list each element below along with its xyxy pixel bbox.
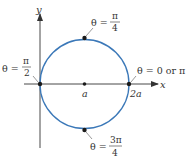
leader-origin bbox=[33, 76, 38, 82]
polar-circle-diagram: y x a 2a θ = π 4 θ = 3π 4 θ = π 2 θ = 0 … bbox=[0, 0, 187, 164]
svg-text:π: π bbox=[23, 56, 29, 66]
center-tick-label: a bbox=[82, 88, 88, 99]
svg-text:θ =: θ = bbox=[91, 17, 108, 28]
point-center bbox=[83, 82, 87, 86]
svg-text:4: 4 bbox=[112, 23, 118, 33]
x-axis-label: x bbox=[160, 79, 166, 90]
leader-bottom bbox=[86, 132, 92, 139]
leader-top bbox=[86, 28, 93, 36]
svg-text:3π: 3π bbox=[110, 135, 122, 145]
point-right bbox=[127, 82, 131, 86]
svg-text:4: 4 bbox=[112, 148, 118, 158]
point-top bbox=[82, 36, 86, 40]
svg-text:π: π bbox=[112, 11, 118, 21]
point-origin bbox=[38, 82, 42, 86]
point-bottom bbox=[82, 128, 86, 132]
label-top: θ = π 4 bbox=[91, 11, 120, 33]
svg-text:θ =: θ = bbox=[2, 63, 19, 74]
label-bottom: θ = 3π 4 bbox=[90, 135, 122, 158]
label-right: θ = 0 or π bbox=[137, 65, 185, 76]
label-origin: θ = π 2 bbox=[2, 56, 31, 78]
y-axis-label: y bbox=[35, 4, 42, 15]
svg-text:θ =: θ = bbox=[90, 141, 107, 152]
right-tick-label: 2a bbox=[129, 88, 142, 99]
leader-right bbox=[131, 76, 136, 82]
svg-text:2: 2 bbox=[24, 68, 30, 78]
